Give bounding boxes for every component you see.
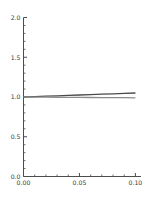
x-tick-label: 0.00 (17, 179, 31, 186)
y-tick-label: 1.5 (11, 54, 21, 61)
chart-figure: 0.00.51.01.52.0 0.000.050.10 (0, 0, 155, 197)
line-chart: 0.00.51.01.52.0 0.000.050.10 (0, 0, 155, 197)
y-tick-label: 0.5 (11, 133, 21, 140)
y-tick-label: 2.0 (11, 14, 21, 21)
x-tick-label: 0.05 (73, 179, 87, 186)
series-line-lower (24, 97, 136, 98)
y-tick-label: 1.0 (11, 93, 21, 100)
x-tick-label: 0.10 (129, 179, 143, 186)
